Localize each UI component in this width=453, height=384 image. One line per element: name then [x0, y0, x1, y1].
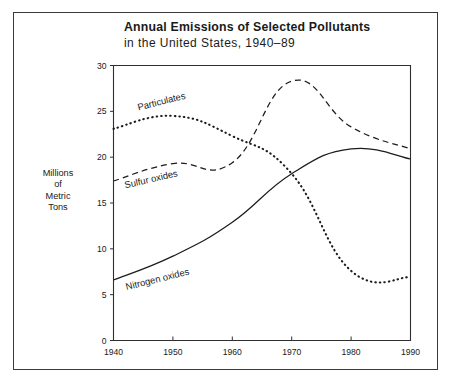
plot-area: 051015202530 194019501960197019801990 Pa… [0, 0, 453, 384]
y-axis: 051015202530 [97, 61, 114, 346]
y-tick-label: 10 [97, 244, 107, 254]
x-tick-label: 1960 [223, 347, 242, 357]
series-label-2: Nitrogen oxides [124, 266, 190, 293]
series-line-2 [114, 148, 411, 280]
y-tick-label: 30 [97, 61, 107, 71]
x-tick-label: 1940 [104, 347, 123, 357]
x-tick-label: 1970 [282, 347, 301, 357]
y-tick-label: 5 [102, 290, 107, 300]
x-tick-label: 1990 [401, 347, 420, 357]
series-line-0 [114, 116, 411, 283]
series-label-0: Particulates [136, 90, 186, 113]
series-labels: ParticulatesSulfur oxidesNitrogen oxides [123, 90, 190, 292]
y-tick-label: 15 [97, 198, 107, 208]
chart-figure: Annual Emissions of Selected Pollutants … [0, 0, 453, 384]
series-label-1: Sulfur oxides [123, 167, 179, 190]
y-tick-label: 25 [97, 106, 107, 116]
series-line-1 [114, 80, 411, 181]
x-axis: 194019501960197019801990 [104, 337, 420, 357]
y-tick-label: 0 [102, 336, 107, 346]
x-tick-label: 1980 [342, 347, 361, 357]
x-tick-label: 1950 [163, 347, 182, 357]
y-tick-label: 20 [97, 152, 107, 162]
